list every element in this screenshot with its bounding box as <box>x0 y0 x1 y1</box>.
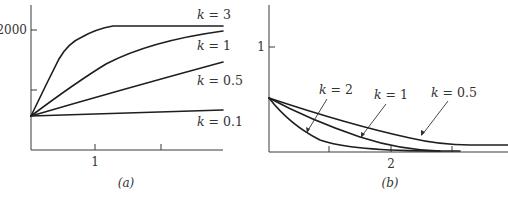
curve-a-k01 <box>31 110 223 116</box>
panel-a-xtick-label-1: 1 <box>91 155 99 169</box>
panel-b-ytick-label-1: 1 <box>257 40 265 54</box>
panel-a: 2000 1 k = 3 k = 1 k = 0.5 k = 0.1 (a) <box>0 5 243 190</box>
panel-b-xtick-label-2: 2 <box>387 157 395 171</box>
curve-b-k05 <box>269 98 508 145</box>
arrow-b-k05 <box>422 101 448 135</box>
curve-a-k05 <box>31 62 223 116</box>
label-a-k01: k = 0.1 <box>197 114 243 129</box>
caption-b: (b) <box>381 176 398 190</box>
label-b-k2: k = 2 <box>319 82 353 97</box>
panel-b: 1 2 k = 2 k = 1 k = 0.5 (b) <box>257 5 508 190</box>
arrow-head-b-k05 <box>421 130 425 136</box>
label-b-k05: k = 0.5 <box>431 85 477 100</box>
panel-a-ytick-label-2000: 2000 <box>0 23 27 37</box>
label-b-k1: k = 1 <box>374 87 408 102</box>
label-a-k1: k = 1 <box>197 38 231 53</box>
label-a-k3: k = 3 <box>197 7 231 22</box>
label-a-k05: k = 0.5 <box>197 73 243 88</box>
curve-a-k1 <box>31 31 223 116</box>
figure: 2000 1 k = 3 k = 1 k = 0.5 k = 0.1 (a) 1… <box>0 0 508 201</box>
caption-a: (a) <box>118 176 135 190</box>
curve-b-k1 <box>269 98 460 151</box>
curve-a-k3 <box>31 26 223 116</box>
